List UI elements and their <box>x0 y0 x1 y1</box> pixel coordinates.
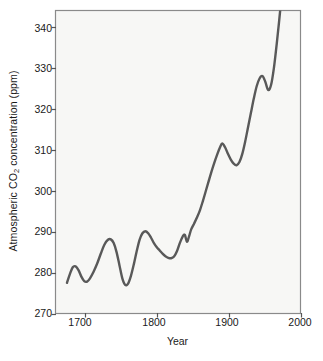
chart-svg <box>0 0 323 361</box>
plot-area-background <box>56 11 301 314</box>
co2-concentration-chart: Atmospheric CO2 concentration (ppm) 340 … <box>0 0 323 361</box>
